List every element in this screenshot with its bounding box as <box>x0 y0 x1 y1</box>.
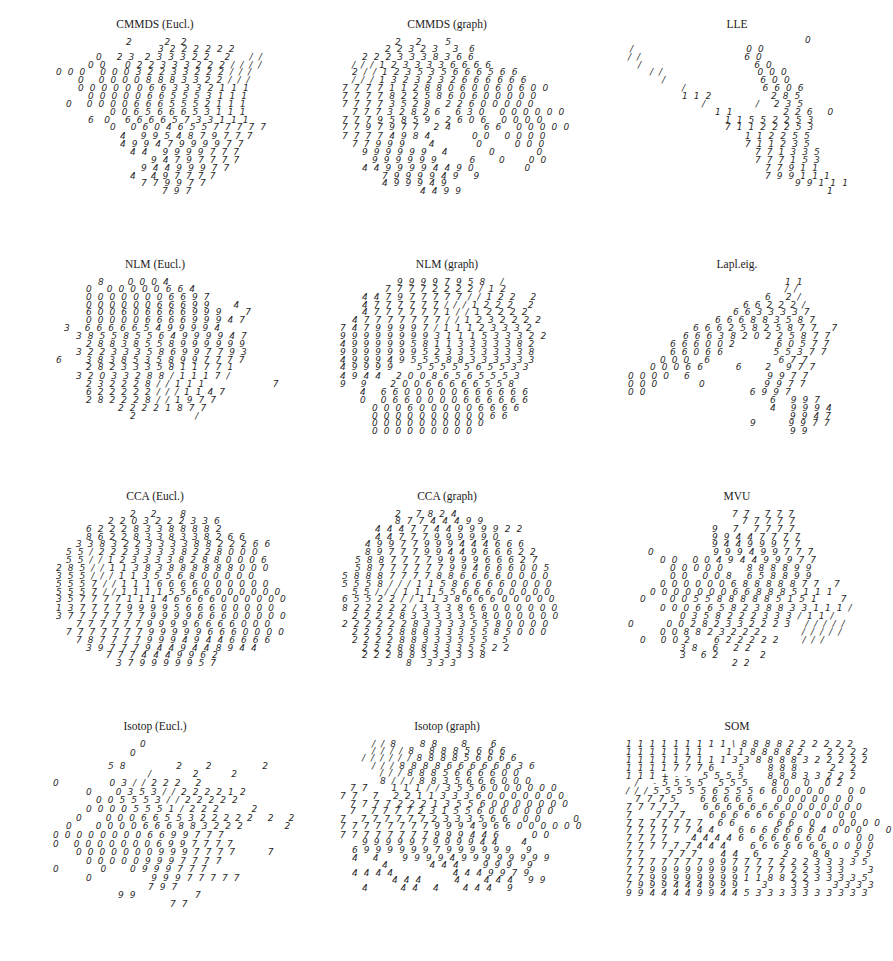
digit-marker-row: 9 9 <box>790 427 809 436</box>
digit-marker-row: 2 / <box>130 412 200 421</box>
embedding-panel: MVU7 7 7 7 77 7 7 7 79 7 7 7 7 79 9 4 4 … <box>590 490 884 715</box>
embedding-panel: CCA (Eucl.)2 2 82 2 0 3 2 2 2 3 3 66 2 2… <box>8 490 302 715</box>
scatter-plot-area: 8 0 0 0 40 0 0 0 0 0 6 6 40 0 0 0 0 0 0 … <box>8 276 302 476</box>
panel-title: CCA (Eucl.) <box>8 490 302 502</box>
panel-title: LLE <box>590 18 884 30</box>
digit-marker-row: 3 6 2 2 <box>680 651 767 660</box>
scatter-plot-area: 0/ 0 0/ / 6 0/ 6 0/ / 0 0 0/ 6 0 0/ 6 6 … <box>590 36 884 236</box>
panel-title: CMMDS (graph) <box>300 18 594 30</box>
scatter-plot-area: 9 9 9 9 7 9 5 8 /7 7 7 7 2 2 2 2 / 1 24 … <box>300 276 594 476</box>
digit-marker-row: 2 2 <box>732 659 751 668</box>
scatter-plot-area: 1 1 1 1 1 1 1 1 1 \ 8 8 8 8 2 2 2 2 2 21… <box>590 738 884 938</box>
digit-marker-row: 8 3 3 3 <box>406 659 458 668</box>
digit-marker-row: 0 <box>805 36 812 45</box>
embedding-panel: Isotop (Eucl.)005 8 2 2 2/ 2 20 0 3 / / … <box>8 720 302 945</box>
embedding-panel: Isotop (graph)/ / 8 8 8 8 6/ / / / 8 8 8… <box>300 720 594 945</box>
embedding-panel: SOM1 1 1 1 1 1 1 1 1 \ 8 8 8 8 2 2 2 2 2… <box>590 720 884 945</box>
digit-marker-row: 0 0 0 0 0 0 0 0 0 <box>372 427 474 436</box>
scatter-plot-area: 1 1/ /6 2 /6 6 2 2 2 /6 6 3 3 3 3 76 6 6… <box>590 276 884 476</box>
scatter-plot-area: 2 2 82 2 0 3 2 2 2 3 3 66 2 2 2 8 3 3 8 … <box>8 508 302 708</box>
embedding-panel: CMMDS (Eucl.)2 2 23 2 2 2 2 2 20 2 3 2 3… <box>8 18 302 243</box>
digit-marker-row: 1 <box>827 187 834 196</box>
digit-marker-row: 4 4 4 4 4 4 4 9 <box>362 884 514 893</box>
embedding-panel: Lapl.eig.1 1/ /6 2 /6 6 2 2 2 /6 6 3 3 3… <box>590 258 884 483</box>
digit-marker-row: 3 7 9 9 9 9 9 5 7 <box>116 659 218 668</box>
digit-marker-row: 0 <box>130 749 137 758</box>
digit-marker-row: 9 9 1 1 1 <box>795 179 849 188</box>
panel-title: NLM (graph) <box>300 258 594 270</box>
embedding-panel: LLE0/ 0 0/ / 6 0/ 6 0/ / 0 0 0/ 6 0 0/ 6… <box>590 18 884 243</box>
panel-title: CMMDS (Eucl.) <box>8 18 302 30</box>
embedding-panel: NLM (Eucl.)8 0 0 0 40 0 0 0 0 0 6 6 40 0… <box>8 258 302 483</box>
digit-marker-row: 7 9 7 <box>162 187 193 196</box>
panel-title: Isotop (graph) <box>300 720 594 732</box>
scatter-plot-area: 2 7 8 2 48 7 7 4 4 4 9 94 4 4 7 7 4 4 9 … <box>300 508 594 708</box>
embedding-panel: NLM (graph)9 9 9 9 7 9 5 8 /7 7 7 7 2 2 … <box>300 258 594 483</box>
embedding-panel: CMMDS (graph)2 2 52 2 3 2 3 3 62 2 2 3 3… <box>300 18 594 243</box>
panel-title: MVU <box>590 490 884 502</box>
panel-title: SOM <box>590 720 884 732</box>
scatter-plot-area: 2 2 52 2 3 2 3 3 62 2 2 3 3 3 8 3 6 6/ /… <box>300 36 594 236</box>
digit-marker-row: 7 7 <box>170 900 189 909</box>
embedding-panel: CCA (graph)2 7 8 2 48 7 7 4 4 4 9 94 4 4… <box>300 490 594 715</box>
scatter-plot-area: 2 2 23 2 2 2 2 2 20 2 3 2 3 3 3 2 2 2 / … <box>8 36 302 236</box>
panel-title: Lapl.eig. <box>590 258 884 270</box>
panel-title: NLM (Eucl.) <box>8 258 302 270</box>
scatter-plot-area: 7 7 7 7 77 7 7 7 79 7 7 7 7 79 9 4 4 7 7… <box>590 508 884 708</box>
digit-marker-row: 0 0 6 9 9 7 <box>628 388 792 397</box>
digit-marker-row: 9 9 7 <box>118 891 202 900</box>
panel-title: Isotop (Eucl.) <box>8 720 302 732</box>
scatter-plot-area: / / 8 8 8 8 6/ / / / 8 8 8 8 5 6 6 6/ / … <box>300 738 594 938</box>
digit-marker-row: 0 <box>140 740 147 749</box>
digit-marker-row: 4 4 9 9 <box>420 187 463 196</box>
panel-title: CCA (graph) <box>300 490 594 502</box>
digit-marker-row: 9 9 4 4 4 4 9 9 4 4 5 3 3 3 3 3 3 3 3 3 … <box>626 889 869 898</box>
scatter-plot-area: 005 8 2 2 2/ 2 20 0 3 / / 2 2 2 20 0 3 5… <box>8 738 302 938</box>
